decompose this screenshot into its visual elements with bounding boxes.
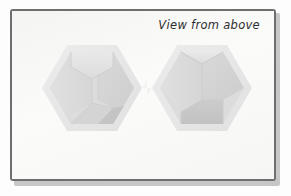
right-hexagon — [152, 45, 252, 131]
view-from-above-label: View from above — [158, 18, 260, 32]
hexagons-illustration — [12, 11, 278, 183]
hexagon-seam-highlight — [142, 80, 152, 96]
left-hexagon — [42, 45, 142, 131]
artwork-stage — [12, 11, 278, 183]
illustration-frame: View from above — [10, 9, 276, 181]
screenshot-canvas: View from above — [0, 0, 291, 196]
